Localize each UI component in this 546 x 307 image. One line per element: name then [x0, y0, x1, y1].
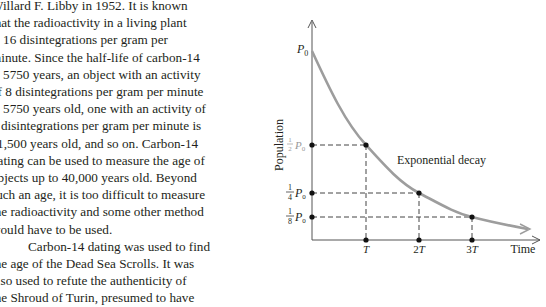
point-half-y: [309, 142, 314, 147]
svg-text:P0: P0: [294, 210, 306, 225]
point-T: [363, 142, 368, 147]
svg-text:1: 1: [288, 136, 292, 144]
point-quarter-y: [309, 190, 314, 195]
curve-annotation: Exponential decay: [397, 153, 486, 167]
tick-label-3T: 3T: [466, 243, 479, 254]
y-axis-label: Population: [272, 119, 286, 171]
point-eighth-y: [309, 214, 314, 219]
tick-3T-dot: [469, 237, 474, 242]
axes: [308, 20, 540, 244]
text-line: also used to refute the authenticity of: [0, 272, 205, 289]
svg-text:2: 2: [288, 145, 292, 153]
x-axis-label: Time: [511, 242, 536, 254]
svg-text:P0: P0: [294, 139, 306, 153]
label-eighth-p0: 1 8 P0: [286, 207, 306, 226]
svg-text:1: 1: [288, 183, 292, 192]
label-quarter-p0: 1 4 P0: [286, 183, 306, 202]
label-p0: P0: [296, 42, 308, 58]
point-3T: [469, 214, 474, 219]
svg-text:1: 1: [288, 207, 292, 216]
tick-T-dot: [363, 237, 368, 242]
svg-text:8: 8: [288, 217, 292, 226]
label-half-p0: 1 2 P0: [287, 136, 306, 153]
tick-label-T: T: [363, 243, 370, 254]
svg-text:P0: P0: [294, 186, 306, 201]
tick-label-2T: 2T: [413, 243, 426, 254]
decay-curve: [312, 51, 528, 229]
text-line: the Shroud of Turin, presumed to have: [0, 289, 205, 306]
text-line: the age of the Dead Sea Scrolls. It was: [0, 255, 205, 272]
tick-2T-dot: [416, 237, 421, 242]
point-2T: [416, 190, 421, 195]
svg-text:4: 4: [288, 193, 292, 202]
